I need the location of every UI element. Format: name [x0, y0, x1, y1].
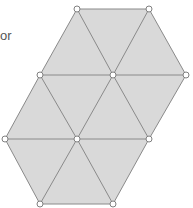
vertex-node-icon — [110, 72, 116, 78]
vertex-node-icon — [110, 201, 116, 207]
vertex-node-icon — [37, 72, 43, 78]
vertex-node-icon — [2, 136, 8, 142]
vertex-node-icon — [74, 136, 80, 142]
vertex-node-icon — [146, 136, 152, 142]
vertex-node-icon — [74, 6, 80, 12]
vertex-node-icon — [146, 6, 152, 12]
triangle-lattice-diagram — [0, 0, 193, 208]
vertex-node-icon — [183, 72, 189, 78]
vertex-node-icon — [37, 201, 43, 207]
